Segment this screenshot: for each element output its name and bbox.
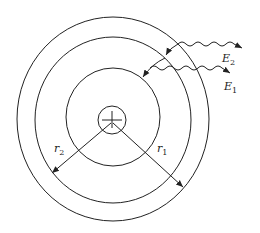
label-e2: E2 [222,52,235,67]
transition-arrow-outer-to-middle [166,44,178,55]
label-r1: r1 [157,142,167,157]
radius-r1-arrow [113,123,183,187]
transition-arrow-middle-to-inner [143,58,165,77]
photon-e2-wave [178,42,242,48]
bohr-atom-diagram [0,0,260,233]
orbit-outer [17,17,209,221]
label-e1: E1 [224,80,237,95]
orbit-inner [66,68,160,166]
photon-e1-wave [150,66,230,73]
label-r2: r2 [54,142,64,157]
